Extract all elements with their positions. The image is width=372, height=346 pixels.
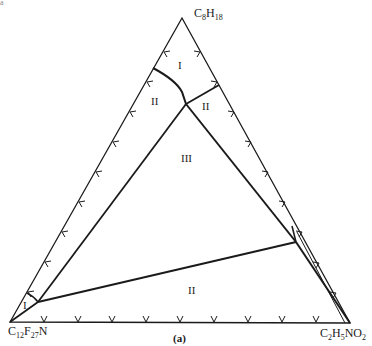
formula-sub: 27 xyxy=(31,331,39,340)
vertex-label-right: C2H5NO2 xyxy=(320,326,366,342)
region-label-II-bottom: II xyxy=(188,284,195,296)
right-edge-inner-line xyxy=(297,232,345,323)
formula-part: C xyxy=(320,326,328,340)
formula-part: C xyxy=(8,324,16,338)
region-label-III: III xyxy=(181,152,192,164)
formula-part: N xyxy=(39,324,48,338)
region-label-I-top: I xyxy=(178,59,182,71)
vertex-label-left: C12F27N xyxy=(8,324,47,340)
formula-part: H xyxy=(332,326,341,340)
formula-part: C xyxy=(194,6,202,20)
formula-part: NO xyxy=(345,326,362,340)
boundary-lower-left-curve xyxy=(27,293,38,302)
region-label-II-upper-right: II xyxy=(202,100,209,112)
vertex-label-top: C8H18 xyxy=(194,6,223,22)
region-label-I-lower-left: I xyxy=(23,299,27,311)
formula-sub: 12 xyxy=(16,331,24,340)
corner-mark: a xyxy=(0,0,4,7)
ternary-phase-diagram xyxy=(0,0,372,346)
left-edge-ticks xyxy=(28,51,170,297)
formula-sub: 18 xyxy=(215,13,223,22)
formula-sub: 2 xyxy=(362,333,366,342)
formula-part: H xyxy=(206,6,215,20)
formula-part: F xyxy=(24,324,31,338)
bottom-edge-ticks xyxy=(41,316,319,322)
figure-caption: (a) xyxy=(173,332,186,344)
boundary-right-lower xyxy=(296,242,350,323)
region-label-II-upper-left: II xyxy=(151,95,158,107)
